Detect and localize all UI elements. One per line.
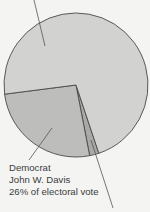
percent-label: 26% of electoral vote — [9, 186, 99, 198]
democrat-annotation: Democrat John W. Davis 26% of electoral … — [9, 162, 99, 198]
party-label: Democrat — [9, 162, 99, 174]
pie-slice-democrat — [5, 85, 90, 157]
candidate-label: John W. Davis — [9, 174, 99, 186]
